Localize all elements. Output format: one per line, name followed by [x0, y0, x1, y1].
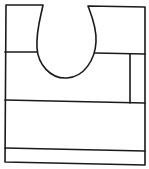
- lower-divider: [5, 148, 145, 151]
- middle-divider: [5, 100, 145, 103]
- diagram-drawing: [0, 0, 149, 169]
- upper-divider-right: [95, 53, 145, 54]
- outline-with-cutout: [5, 5, 145, 165]
